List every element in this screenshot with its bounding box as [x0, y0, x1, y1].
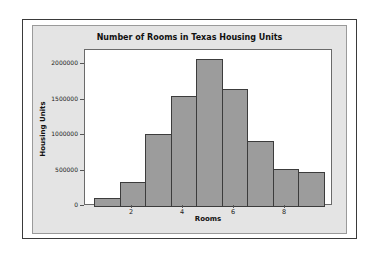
y-tick — [80, 63, 84, 64]
plot-area — [84, 49, 332, 205]
histogram-bar — [120, 182, 147, 207]
y-tick — [80, 134, 84, 135]
histogram-bar — [196, 59, 223, 207]
histogram-bar — [222, 89, 249, 207]
x-tick-label: 6 — [225, 208, 241, 216]
x-tick-label: 8 — [276, 208, 292, 216]
y-tick-label: 500000 — [38, 166, 78, 173]
histogram-bar — [298, 172, 325, 207]
histogram-bar — [171, 96, 198, 207]
x-tick-label: 2 — [123, 208, 139, 216]
y-tick — [80, 99, 84, 100]
x-tick-label: 4 — [174, 208, 190, 216]
y-tick-label: 2000000 — [38, 59, 78, 66]
histogram-bar — [247, 141, 274, 207]
y-tick — [80, 170, 84, 171]
chart-title: Number of Rooms in Texas Housing Units — [32, 33, 347, 42]
histogram-bar — [145, 134, 172, 207]
y-tick-label: 0 — [38, 201, 78, 208]
x-axis-title: Rooms — [84, 215, 332, 223]
histogram-bar — [273, 169, 300, 207]
histogram-bar — [94, 198, 121, 207]
y-tick — [80, 205, 84, 206]
y-tick-label: 1500000 — [38, 95, 78, 102]
y-tick-label: 1000000 — [38, 130, 78, 137]
